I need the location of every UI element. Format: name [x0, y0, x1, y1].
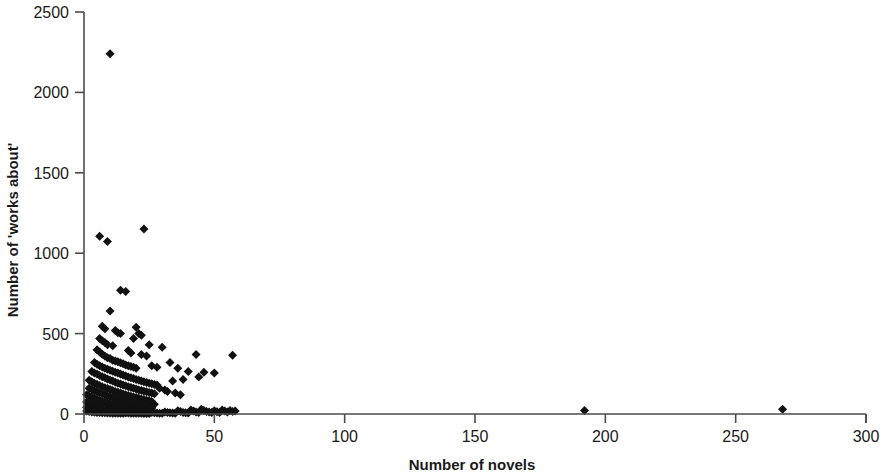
tick-labels: 05010015020025030005001000150020002500 — [33, 4, 879, 445]
data-point-marker — [173, 364, 182, 373]
plot-area: 05010015020025030005001000150020002500 N… — [0, 0, 886, 476]
data-point-marker — [778, 405, 787, 414]
x-tick-label: 200 — [592, 428, 619, 445]
data-point-marker — [139, 225, 148, 234]
scatter-chart: 05010015020025030005001000150020002500 N… — [0, 0, 886, 476]
data-point-marker — [158, 343, 167, 352]
y-tick-label: 2000 — [33, 84, 69, 101]
x-tick-label: 300 — [853, 428, 880, 445]
x-axis-title: Number of novels — [409, 456, 536, 473]
y-tick-label: 1500 — [33, 165, 69, 182]
data-point-marker — [228, 351, 237, 360]
data-point-marker — [168, 377, 177, 386]
data-point-marker — [184, 367, 193, 376]
data-point-marker — [210, 368, 219, 377]
data-point-marker — [95, 232, 104, 241]
x-tick-label: 50 — [205, 428, 223, 445]
data-markers — [82, 49, 787, 418]
x-tick-label: 100 — [331, 428, 358, 445]
x-tick-label: 250 — [722, 428, 749, 445]
axes — [75, 12, 866, 423]
y-tick-label: 1000 — [33, 245, 69, 262]
y-tick-label: 500 — [42, 326, 69, 343]
data-point-marker — [103, 237, 112, 246]
data-point-marker — [166, 358, 175, 367]
data-point-marker — [106, 49, 115, 58]
data-point-marker — [179, 375, 188, 384]
data-point-marker — [145, 340, 154, 349]
data-point-marker — [192, 350, 201, 359]
data-point-marker — [106, 307, 115, 316]
y-axis-title: Number of 'works about' — [4, 143, 21, 318]
y-tick-label: 2500 — [33, 4, 69, 21]
x-tick-label: 0 — [80, 428, 89, 445]
x-tick-label: 150 — [462, 428, 489, 445]
y-tick-label: 0 — [60, 406, 69, 423]
